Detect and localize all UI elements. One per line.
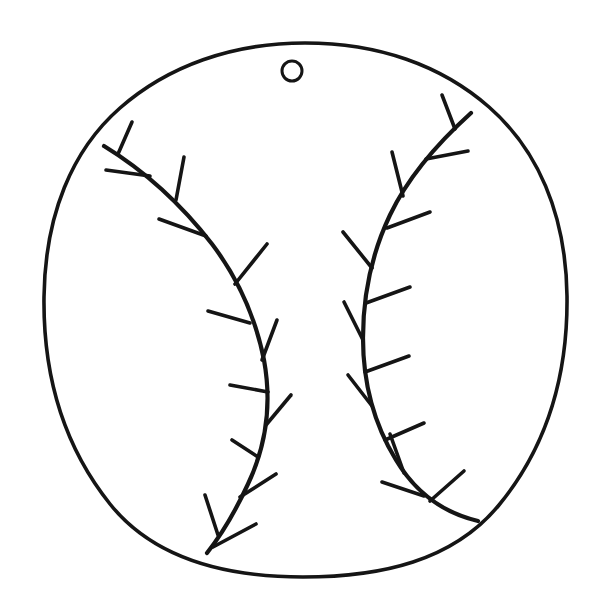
drawing-canvas: Baseball Ornament Coloring Page [0,0,605,613]
paper-background [0,0,605,613]
baseball-drawing [0,0,605,613]
